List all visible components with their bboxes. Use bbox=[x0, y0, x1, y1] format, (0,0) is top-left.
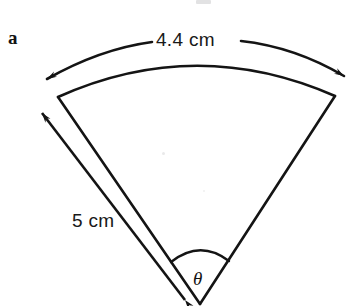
radius-length-label: 5 cm bbox=[72, 211, 114, 230]
radius-dimension bbox=[42, 113, 185, 300]
central-angle-arc bbox=[171, 250, 229, 262]
right-radius-line bbox=[200, 96, 335, 304]
theta-angle-label: θ bbox=[193, 269, 202, 288]
left-radius-line bbox=[58, 97, 200, 304]
part-letter-label: a bbox=[8, 28, 18, 47]
sector-figure: a 4.4 cm 5 cm θ bbox=[0, 0, 357, 306]
arc-length-label: 4.4 cm bbox=[156, 30, 215, 49]
radius-dimension-line bbox=[42, 113, 185, 300]
angle-arc bbox=[171, 250, 229, 262]
sector-arc bbox=[58, 66, 335, 97]
arc-dimension-left-segment bbox=[47, 42, 152, 79]
